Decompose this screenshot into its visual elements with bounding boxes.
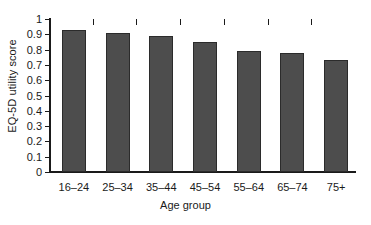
x-axis-tick-label: 75+ (327, 182, 346, 193)
x-axis-tick-mark (268, 19, 269, 25)
y-axis-tick-mark (45, 80, 50, 81)
y-axis-tick-label: 0.9 (27, 29, 42, 40)
y-axis-tick-label: 1 (36, 14, 42, 25)
y-axis-tick-label: 0.5 (27, 90, 42, 101)
y-axis-tick-mark (45, 172, 50, 173)
y-axis-tick-mark (45, 157, 50, 158)
y-axis-tick-mark (45, 96, 50, 97)
bar-chart: EQ-5D utility score 00.10.20.30.40.50.60… (0, 0, 371, 225)
y-axis-tick-mark (45, 111, 50, 112)
x-axis-tick-mark (136, 19, 137, 25)
y-axis-tick-label: 0 (36, 167, 42, 178)
y-axis-tick-mark (45, 19, 50, 20)
x-axis-tick-label: 65–74 (277, 182, 308, 193)
x-axis-tick-mark (311, 19, 312, 25)
y-axis-tick-label: 0.6 (27, 75, 42, 86)
bar (106, 33, 130, 172)
bar (280, 53, 304, 172)
x-axis-tick-mark (224, 19, 225, 25)
y-axis-tick-mark (45, 126, 50, 127)
y-axis-tick-mark (45, 50, 50, 51)
plot-area: 00.10.20.30.40.50.60.70.80.91 (49, 19, 355, 172)
x-axis-title: Age group (0, 200, 371, 211)
bar (149, 36, 173, 172)
x-axis-tick-label: 55–64 (233, 182, 264, 193)
x-axis-tick-label: 35–44 (146, 182, 177, 193)
x-axis-tick-mark (93, 19, 94, 25)
y-axis-tick-label: 0.8 (27, 44, 42, 55)
y-axis-tick-mark (45, 65, 50, 66)
y-axis-tick-label: 0.4 (27, 105, 42, 116)
y-axis-tick-label: 0.7 (27, 59, 42, 70)
y-axis-tick-mark (45, 34, 50, 35)
y-axis-tick-label: 0.1 (27, 151, 42, 162)
x-axis-tick-mark (180, 19, 181, 25)
x-axis-tick-label: 16–24 (59, 182, 90, 193)
y-axis-tick-mark (45, 141, 50, 142)
bar (237, 51, 261, 172)
y-axis-title: EQ-5D utility score (3, 0, 21, 172)
bar (324, 60, 348, 172)
y-axis-tick-label: 0.3 (27, 121, 42, 132)
y-axis-tick-label: 0.2 (27, 136, 42, 147)
bar (62, 30, 86, 172)
x-axis-tick-label: 45–54 (190, 182, 221, 193)
bar (193, 42, 217, 172)
x-axis-tick-label: 25–34 (102, 182, 133, 193)
